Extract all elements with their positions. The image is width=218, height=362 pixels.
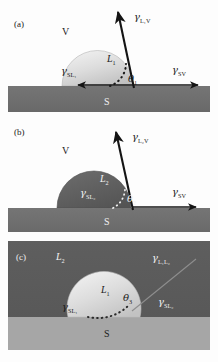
solid-substrate — [8, 208, 210, 232]
panel-c: (c) L2 L1 S γL₁L₂ γSL₁ γSL₂ θ3 — [0, 237, 218, 359]
solid-substrate — [8, 317, 210, 350]
panel-b: (b) V L2 S γL₂V γSL₂ γSV θ2 — [0, 118, 218, 232]
wetting-contact-angle-figure: (a) V L1 S γL₁V γSL₁ γSV θ1 — [0, 0, 218, 362]
solid-substrate — [8, 86, 210, 112]
panel-a: (a) V L1 S γL₁V γSL₁ γSV θ1 — [0, 0, 218, 114]
